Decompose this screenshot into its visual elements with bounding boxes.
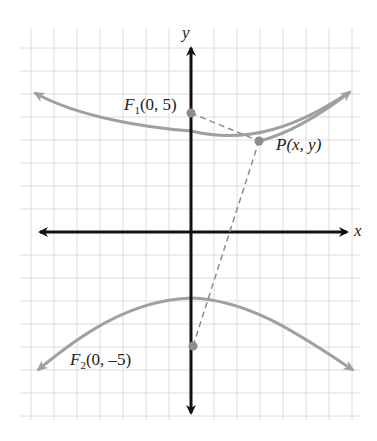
f2-letter: F: [70, 350, 80, 369]
hyperbola-diagram: [0, 0, 377, 441]
y-axis-label: y: [182, 24, 190, 41]
dashed-f2-p: [193, 141, 259, 346]
x-axis-label: x: [354, 222, 362, 239]
f2-coords: (0, –5): [86, 350, 131, 369]
focus-f2-point: [189, 342, 198, 351]
p-letter: P: [276, 135, 286, 154]
f1-coords: (0, 5): [140, 95, 177, 114]
f1-letter: F: [124, 95, 134, 114]
point-p: [255, 137, 264, 146]
p-coords: (x, y): [286, 135, 321, 154]
focus-f1-label: F1(0, 5): [124, 96, 177, 116]
focus-f2-label: F2(0, –5): [70, 351, 131, 371]
point-p-label: P(x, y): [276, 136, 321, 153]
focus-f1-point: [187, 109, 196, 118]
